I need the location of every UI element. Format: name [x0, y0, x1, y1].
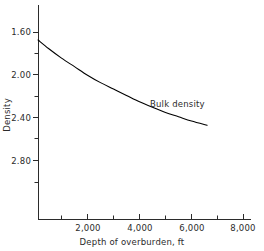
y-tick-label-2: 2.00 — [6, 70, 31, 80]
x-tick-label-1: 2,000 — [75, 223, 100, 233]
y-axis-ticks — [33, 33, 39, 183]
y-axis-title: Density — [2, 98, 12, 132]
axis-lines — [38, 5, 251, 220]
chart-plot-area — [0, 0, 264, 251]
chart-figure: 1.60 2.00 2.40 2.80 2,000 4,000 6,000 8,… — [0, 0, 264, 251]
bulk-density-curve — [38, 40, 207, 125]
x-axis-title: Depth of overburden, ft — [80, 237, 185, 247]
x-tick-label-4: 8,000 — [230, 223, 255, 233]
y-tick-label-1: 1.60 — [6, 27, 31, 37]
y-tick-label-4: 2.80 — [6, 156, 31, 166]
x-tick-label-3: 6,000 — [179, 223, 204, 233]
x-tick-label-2: 4,000 — [127, 223, 152, 233]
x-axis-ticks — [62, 214, 244, 220]
bulk-density-annotation: Bulk density — [150, 99, 205, 109]
